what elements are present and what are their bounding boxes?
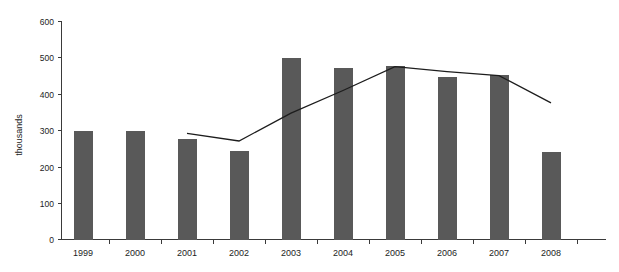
bar-2000 xyxy=(126,131,145,240)
chart-container: thousands 600 500 400 300 200 100 0 xyxy=(0,0,619,272)
y-tick-label: 300 xyxy=(40,126,54,136)
bar-2008 xyxy=(542,152,561,240)
x-tick-label-2002: 2002 xyxy=(229,248,249,258)
x-tick-label-2007: 2007 xyxy=(489,248,509,258)
y-tick-label: 400 xyxy=(40,90,54,100)
x-tick-label-2006: 2006 xyxy=(437,248,457,258)
x-tick-label-2008: 2008 xyxy=(541,248,561,258)
y-tick-label: 500 xyxy=(40,53,54,63)
chart-background xyxy=(0,0,619,272)
x-tick-label-2004: 2004 xyxy=(333,248,353,258)
y-tick-label: 200 xyxy=(40,163,54,173)
y-tick-label: 0 xyxy=(49,235,54,245)
bar-2001 xyxy=(178,139,197,239)
x-tick-label-2005: 2005 xyxy=(385,248,405,258)
bar-2003 xyxy=(282,58,301,240)
bar-2002 xyxy=(230,151,249,240)
x-tick-label-2001: 2001 xyxy=(177,248,197,258)
y-axis-title: thousands xyxy=(14,114,24,156)
x-tick-label-1999: 1999 xyxy=(73,248,93,258)
combo-bar-line-chart: thousands 600 500 400 300 200 100 0 xyxy=(0,0,619,272)
y-tick-label: 600 xyxy=(40,17,54,27)
bar-2007 xyxy=(490,75,509,239)
bar-2005 xyxy=(386,66,405,239)
bar-1999 xyxy=(74,131,93,240)
x-tick-label-2000: 2000 xyxy=(125,248,145,258)
y-tick-label: 100 xyxy=(40,199,54,209)
bar-2006 xyxy=(438,77,457,240)
x-tick-label-2003: 2003 xyxy=(281,248,301,258)
